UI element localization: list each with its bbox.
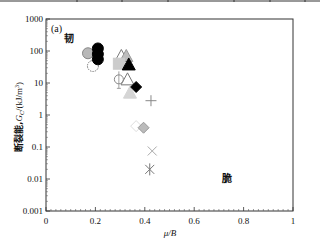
x-tick-label: 0.4 xyxy=(139,216,151,226)
y-tick-label: 100 xyxy=(30,46,44,56)
data-point-black-filled-circle xyxy=(92,54,103,65)
page-top-rule xyxy=(0,0,320,2)
x-tick-label: 0.6 xyxy=(189,216,201,226)
y-tick-label: 0.01 xyxy=(27,174,43,184)
x-tick-label: 0 xyxy=(44,216,49,226)
y-axis-label: 断裂能,GC/(kJ/m3) xyxy=(13,82,25,152)
x-tick-label: 0.2 xyxy=(90,216,101,226)
plot-frame xyxy=(46,19,293,211)
y-tick-label: 1000 xyxy=(25,14,44,24)
y-tick-label: 10 xyxy=(34,78,44,88)
scatter-chart: 00.20.40.60.81 0.0010.010.11101001000 (a… xyxy=(0,0,320,251)
data-point-gray-filled-square xyxy=(113,58,124,69)
data-point-gray-filled-circle xyxy=(82,48,93,59)
data-points xyxy=(82,43,156,175)
svg-text:断裂能,GC/(kJ/m3): 断裂能,GC/(kJ/m3) xyxy=(13,82,25,152)
x-tick-label: 1 xyxy=(291,216,296,226)
x-tick-label: 0.8 xyxy=(238,216,250,226)
ductile-region-label: 韧 xyxy=(64,32,74,44)
brittle-region-label: 脆 xyxy=(221,172,232,184)
y-label-unit: /(kJ/m xyxy=(14,88,24,111)
y-tick-label: 1 xyxy=(39,110,44,120)
x-axis-ticks: 00.20.40.60.81 xyxy=(44,207,296,226)
panel-label: (a) xyxy=(51,23,62,35)
y-label-close: ) xyxy=(14,82,24,85)
x-axis-label: μ/B xyxy=(163,228,177,238)
y-tick-label: 0.1 xyxy=(32,142,43,152)
y-label-prefix: 断裂能, xyxy=(13,122,24,152)
y-tick-label: 0.001 xyxy=(23,206,43,216)
